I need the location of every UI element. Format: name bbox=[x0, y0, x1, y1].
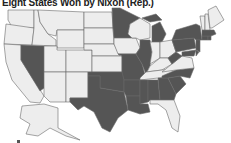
state-pa bbox=[172, 38, 196, 52]
state-fl bbox=[150, 100, 180, 132]
state-hi bbox=[17, 140, 20, 143]
state-ct bbox=[202, 36, 208, 40]
state-ri bbox=[208, 36, 211, 40]
state-nd bbox=[84, 12, 113, 28]
state-nm bbox=[66, 72, 88, 102]
state-co bbox=[66, 50, 92, 72]
us-states-map bbox=[0, 0, 231, 143]
state-ak bbox=[20, 104, 80, 140]
state-or bbox=[4, 24, 34, 45]
state-ma bbox=[202, 30, 216, 36]
state-wy bbox=[57, 30, 84, 48]
state-ut bbox=[44, 46, 66, 72]
state-ia bbox=[114, 38, 140, 54]
state-az bbox=[44, 72, 66, 102]
state-ms bbox=[140, 80, 148, 104]
state-sd bbox=[84, 28, 114, 44]
state-me bbox=[208, 6, 224, 28]
state-vt bbox=[200, 16, 205, 30]
state-ny bbox=[172, 24, 202, 40]
state-ks bbox=[92, 56, 122, 72]
state-md bbox=[182, 50, 196, 56]
state-ar bbox=[124, 80, 140, 96]
